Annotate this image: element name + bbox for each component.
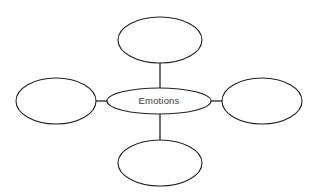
diagram-canvas: Emotions xyxy=(0,0,316,194)
branch-node-right[interactable] xyxy=(222,78,302,124)
branch-node-top[interactable] xyxy=(118,17,202,63)
branch-node-bottom[interactable] xyxy=(118,140,202,186)
spider-concept-map: Emotions xyxy=(0,0,316,194)
branch-node-left[interactable] xyxy=(16,78,96,124)
center-node-label: Emotions xyxy=(139,95,180,106)
